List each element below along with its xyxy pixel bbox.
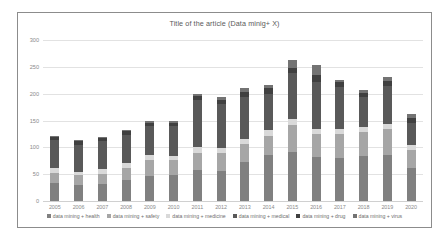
x-axis-tick-label: 2016 xyxy=(310,204,322,210)
bar-segment[interactable] xyxy=(193,170,202,201)
bar-segment[interactable] xyxy=(335,87,344,129)
bar-segment[interactable] xyxy=(359,132,368,156)
bar-segment[interactable] xyxy=(145,126,154,155)
stacked-bar[interactable] xyxy=(50,136,59,201)
bar-segment[interactable] xyxy=(74,185,83,201)
bar-segment[interactable] xyxy=(193,100,202,147)
bar-segment[interactable] xyxy=(264,94,273,130)
legend-item[interactable]: data mining + medicine xyxy=(166,213,226,219)
bar-segment[interactable] xyxy=(145,160,154,176)
bar-segment[interactable] xyxy=(122,180,131,201)
bar-segment[interactable] xyxy=(145,176,154,201)
stacked-bar[interactable] xyxy=(193,94,202,201)
chart-container: Title of the article (Data minig+ X) 050… xyxy=(17,12,432,228)
x-axis-tick-label: 2014 xyxy=(263,204,275,210)
bar-segment[interactable] xyxy=(169,175,178,201)
stacked-bar[interactable] xyxy=(145,121,154,201)
stacked-bar[interactable] xyxy=(407,114,416,201)
stacked-bar[interactable] xyxy=(98,137,107,201)
bar-column[interactable]: 2014 xyxy=(257,40,281,201)
bar-column[interactable]: 2008 xyxy=(114,40,138,201)
bar-segment[interactable] xyxy=(122,135,131,164)
chart-legend: data mining + healthdata mining + safety… xyxy=(18,213,431,219)
bar-segment[interactable] xyxy=(335,158,344,201)
bar-column[interactable]: 2011 xyxy=(186,40,210,201)
x-axis-tick-label: 2013 xyxy=(239,204,251,210)
bar-column[interactable]: 2020 xyxy=(399,40,423,201)
stacked-bar[interactable] xyxy=(359,90,368,201)
bar-segment[interactable] xyxy=(312,157,321,201)
bar-segment[interactable] xyxy=(169,126,178,156)
bar-column[interactable]: 2007 xyxy=(91,40,115,201)
bar-segment[interactable] xyxy=(407,150,416,168)
bar-segment[interactable] xyxy=(288,60,297,68)
x-axis-tick-label: 2019 xyxy=(381,204,393,210)
bar-segment[interactable] xyxy=(359,156,368,201)
bar-column[interactable]: 2012 xyxy=(209,40,233,201)
bar-segment[interactable] xyxy=(312,134,321,157)
legend-item[interactable]: data mining + virus xyxy=(353,213,403,219)
bar-column[interactable]: 2018 xyxy=(352,40,376,201)
x-axis-tick-label: 2009 xyxy=(144,204,156,210)
bar-segment[interactable] xyxy=(288,152,297,201)
bar-segment[interactable] xyxy=(240,97,249,139)
stacked-bar[interactable] xyxy=(169,121,178,201)
bar-column[interactable]: 2005 xyxy=(43,40,67,201)
bar-column[interactable]: 2009 xyxy=(138,40,162,201)
bar-segment[interactable] xyxy=(240,144,249,162)
bar-segment[interactable] xyxy=(122,168,131,180)
bar-segment[interactable] xyxy=(383,129,392,155)
stacked-bar[interactable] xyxy=(122,130,131,201)
bar-segment[interactable] xyxy=(217,153,226,171)
bar-segment[interactable] xyxy=(264,136,273,155)
stacked-bar[interactable] xyxy=(217,97,226,201)
bar-segment[interactable] xyxy=(312,65,321,76)
bar-segment[interactable] xyxy=(407,123,416,146)
bar-series-group: 2005200620072008200920102011201220132014… xyxy=(43,40,423,201)
bar-column[interactable]: 2013 xyxy=(233,40,257,201)
stacked-bar[interactable] xyxy=(240,88,249,201)
bar-column[interactable]: 2006 xyxy=(67,40,91,201)
stacked-bar[interactable] xyxy=(74,140,83,201)
stacked-bar[interactable] xyxy=(264,85,273,201)
bar-segment[interactable] xyxy=(193,153,202,170)
stacked-bar[interactable] xyxy=(335,80,344,201)
bar-segment[interactable] xyxy=(217,171,226,201)
bar-segment[interactable] xyxy=(50,183,59,201)
y-axis-tick-label: 0 xyxy=(36,198,39,204)
bar-segment[interactable] xyxy=(74,145,83,172)
bar-segment[interactable] xyxy=(240,162,249,201)
bar-column[interactable]: 2015 xyxy=(281,40,305,201)
stacked-bar[interactable] xyxy=(383,77,392,201)
bar-segment[interactable] xyxy=(217,104,226,148)
bar-segment[interactable] xyxy=(359,97,368,127)
bar-column[interactable]: 2017 xyxy=(328,40,352,201)
bar-segment[interactable] xyxy=(50,173,59,184)
bar-segment[interactable] xyxy=(98,174,107,185)
stacked-bar[interactable] xyxy=(288,60,297,201)
bar-segment[interactable] xyxy=(288,125,297,152)
bar-segment[interactable] xyxy=(50,140,59,168)
y-axis-tick-label: 50 xyxy=(33,171,39,177)
legend-item[interactable]: data mining + safety xyxy=(107,213,160,219)
bar-segment[interactable] xyxy=(383,86,392,124)
x-axis-tick-label: 2008 xyxy=(120,204,132,210)
stacked-bar[interactable] xyxy=(312,65,321,201)
bar-column[interactable]: 2019 xyxy=(376,40,400,201)
bar-segment[interactable] xyxy=(169,160,178,175)
bar-column[interactable]: 2016 xyxy=(304,40,328,201)
bar-segment[interactable] xyxy=(383,155,392,201)
bar-segment[interactable] xyxy=(312,82,321,129)
bar-segment[interactable] xyxy=(288,73,297,119)
bar-segment[interactable] xyxy=(98,184,107,201)
legend-label: data mining + medical xyxy=(239,213,290,219)
legend-item[interactable]: data mining + drug xyxy=(296,213,345,219)
bar-segment[interactable] xyxy=(74,175,83,185)
bar-segment[interactable] xyxy=(98,141,107,169)
bar-segment[interactable] xyxy=(407,168,416,201)
bar-column[interactable]: 2010 xyxy=(162,40,186,201)
legend-item[interactable]: data mining + health xyxy=(47,213,100,219)
bar-segment[interactable] xyxy=(335,134,344,158)
bar-segment[interactable] xyxy=(264,155,273,201)
legend-item[interactable]: data mining + medical xyxy=(233,213,290,219)
